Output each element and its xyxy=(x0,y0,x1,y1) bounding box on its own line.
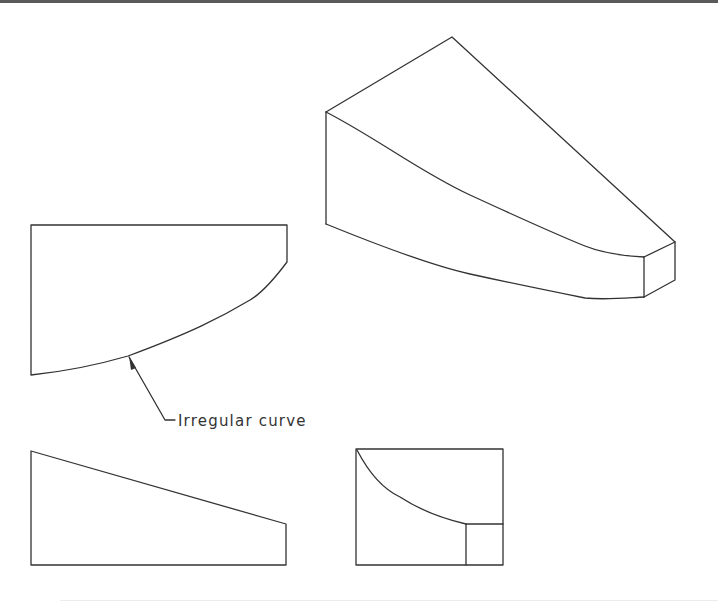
bottom-faint-rule xyxy=(60,600,718,601)
side-view-outline xyxy=(356,449,503,565)
irregular-curve-label: Irregular curve xyxy=(178,412,307,430)
isometric-view xyxy=(326,37,675,299)
top-view-outline xyxy=(31,451,286,565)
iso-upper-curve xyxy=(326,112,644,257)
side-view-curve xyxy=(357,450,466,524)
front-view-outline xyxy=(31,225,287,375)
top-view xyxy=(31,451,286,565)
side-view-corner-square xyxy=(466,524,503,565)
front-view xyxy=(31,225,287,375)
leader-line xyxy=(129,357,175,420)
iso-lower-curve xyxy=(326,224,644,299)
iso-top-face xyxy=(326,37,675,257)
technical-drawing: Irregular curve xyxy=(0,0,718,605)
side-view xyxy=(356,449,503,565)
irregular-curve-leader xyxy=(129,356,175,420)
iso-right-edge xyxy=(644,242,675,297)
leader-arrowhead-icon xyxy=(129,356,136,370)
